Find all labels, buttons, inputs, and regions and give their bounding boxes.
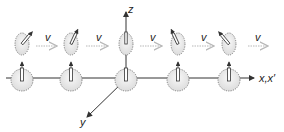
velocity-label: v: [255, 31, 262, 43]
x-axis-label: x,x′: [258, 72, 276, 84]
velocity-label: v: [150, 31, 157, 43]
velocity-label: v: [201, 31, 208, 43]
stationary-clock-icon: [218, 62, 240, 91]
z-axis-label: z: [127, 3, 134, 15]
stationary-clock-icon: [11, 62, 33, 91]
moving-clock-icon: [15, 31, 33, 55]
moving-clock-icon: [64, 29, 79, 55]
moving-clock-icon: [170, 29, 185, 55]
stationary-clock-icon: [115, 68, 137, 91]
velocity-label: v: [45, 31, 52, 43]
velocity-label: v: [96, 31, 103, 43]
relativity-clocks-diagram: v v v v v z y x,x′: [0, 0, 284, 132]
moving-clock-icon: [218, 31, 236, 55]
stationary-clock-icon: [60, 62, 82, 91]
moving-clock-icon: [119, 32, 133, 55]
stationary-clock-icon: [167, 62, 189, 91]
y-axis-label: y: [79, 116, 87, 128]
